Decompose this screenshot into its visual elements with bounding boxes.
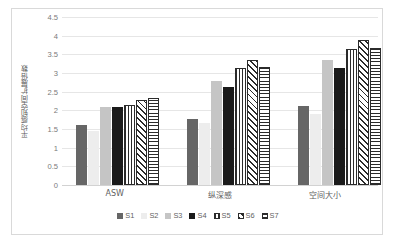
bar-s1-2[interactable] xyxy=(298,106,309,185)
legend-swatch-icon xyxy=(214,213,220,219)
bar-s1-1[interactable] xyxy=(187,119,198,185)
legend-swatch-icon xyxy=(238,213,244,219)
gridline xyxy=(62,185,378,186)
y-axis-tick-label: 2 xyxy=(32,106,58,115)
bar-group xyxy=(62,17,173,185)
legend-swatch-icon xyxy=(141,213,147,219)
bar-s4-2[interactable] xyxy=(334,68,345,185)
x-axis-category-label: 空间大小 xyxy=(273,189,378,205)
legend-item-s7[interactable]: S7 xyxy=(262,211,279,220)
bar-s7-0[interactable] xyxy=(148,98,159,185)
legend-label: S1 xyxy=(125,211,134,220)
legend-label: S7 xyxy=(270,211,279,220)
y-axis-tick-label: 4 xyxy=(32,31,58,40)
bar-s3-1[interactable] xyxy=(211,81,222,185)
y-axis-tick-labels: 4.543.532.521.510.50 xyxy=(32,17,58,185)
bar-s2-0[interactable] xyxy=(88,131,99,185)
y-axis-tick-label: 4.5 xyxy=(32,13,58,22)
legend-item-s1[interactable]: S1 xyxy=(117,211,134,220)
bar-s5-2[interactable] xyxy=(346,49,357,185)
bar-s6-0[interactable] xyxy=(136,100,147,185)
x-axis-category-labels: ASW纵深感空间大小 xyxy=(62,189,378,205)
legend-swatch-icon xyxy=(262,213,268,219)
bar-s1-0[interactable] xyxy=(76,125,87,185)
legend-item-s2[interactable]: S2 xyxy=(141,211,158,220)
bar-s3-0[interactable] xyxy=(100,107,111,185)
legend-label: S2 xyxy=(149,211,158,220)
legend-swatch-icon xyxy=(189,213,195,219)
legend-item-s6[interactable]: S6 xyxy=(238,211,255,220)
bar-s7-2[interactable] xyxy=(370,48,381,185)
y-axis-tick-label: 0.5 xyxy=(32,162,58,171)
chart-container: 平均感知空间扩展倍数 4.543.532.521.510.50 ASW纵深感空间… xyxy=(11,8,383,235)
chart-legend: S1S2S3S4S5S6S7 xyxy=(12,211,384,220)
bar-s6-2[interactable] xyxy=(358,40,369,185)
bar-s3-2[interactable] xyxy=(322,60,333,185)
bar-s5-0[interactable] xyxy=(124,105,135,185)
y-axis-title-text: 平均感知空间扩展倍数 xyxy=(20,65,30,138)
legend-label: S3 xyxy=(173,211,182,220)
legend-label: S6 xyxy=(246,211,255,220)
y-axis-tick-label: 3 xyxy=(32,69,58,78)
bar-s6-1[interactable] xyxy=(247,60,258,185)
legend-swatch-icon xyxy=(117,213,123,219)
bar-group xyxy=(284,17,395,185)
legend-item-s5[interactable]: S5 xyxy=(214,211,231,220)
y-axis-tick-label: 1 xyxy=(32,143,58,152)
y-axis-tick-label: 3.5 xyxy=(32,50,58,59)
bar-groups xyxy=(62,17,378,185)
x-axis-category-label: ASW xyxy=(62,189,167,205)
bar-s5-1[interactable] xyxy=(235,68,246,185)
legend-item-s4[interactable]: S4 xyxy=(189,211,206,220)
legend-label: S5 xyxy=(222,211,231,220)
bar-s2-1[interactable] xyxy=(199,123,210,185)
legend-label: S4 xyxy=(197,211,206,220)
bar-s4-0[interactable] xyxy=(112,107,123,185)
legend-swatch-icon xyxy=(165,213,171,219)
y-axis-tick-label: 1.5 xyxy=(32,125,58,134)
bar-s2-2[interactable] xyxy=(310,114,321,185)
bar-group xyxy=(173,17,284,185)
bar-s4-1[interactable] xyxy=(223,87,234,185)
legend-item-s3[interactable]: S3 xyxy=(165,211,182,220)
bar-s7-1[interactable] xyxy=(259,67,270,185)
y-axis-tick-label: 2.5 xyxy=(32,87,58,96)
plot-area xyxy=(62,17,378,185)
y-axis-tick-label: 0 xyxy=(32,181,58,190)
x-axis-category-label: 纵深感 xyxy=(167,189,272,205)
